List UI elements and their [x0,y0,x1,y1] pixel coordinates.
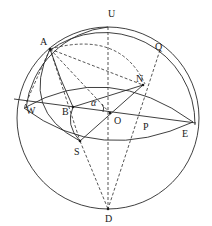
label-u: U [108,8,116,19]
point-a [49,48,52,51]
line-q-d [108,50,160,209]
line-a-n [50,49,143,85]
label-e: E [182,128,188,139]
point-s [79,140,82,143]
horizon-front [24,108,193,140]
line-s-d [80,141,108,209]
label-s: S [74,146,80,157]
label-n: N [136,73,143,84]
great-circle-abs [40,49,80,141]
meridian-arc-inner [49,32,195,125]
label-a: A [40,36,48,47]
label-d: D [105,213,112,224]
line-a-o [50,49,110,113]
line-a-s-solid [50,49,80,141]
point-o [109,112,112,115]
label-w: W [26,105,36,116]
label-o: O [114,115,121,126]
label-p: P [143,121,149,132]
label-b: B [62,106,69,117]
point-n [142,84,145,87]
line-s-n [80,85,143,141]
celestial-sphere-diagram: U Q A N W B α O P E S D [0,0,212,226]
label-q: Q [155,41,163,52]
label-alpha: α [91,97,97,108]
point-d [107,208,110,211]
point-b [72,106,75,109]
